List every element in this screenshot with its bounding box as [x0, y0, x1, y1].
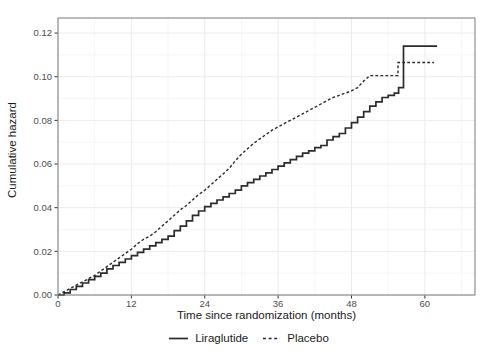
liraglutide-line-key-icon: [169, 336, 188, 341]
y-tick-label: 0.04: [34, 202, 53, 213]
y-tick-label: 0.08: [34, 115, 53, 126]
x-axis-title: Time since randomization (months): [58, 308, 475, 322]
legend-item-placebo: Placebo: [263, 332, 329, 344]
legend-label-liraglutide: Liraglutide: [195, 332, 248, 344]
liraglutide-curve: [58, 46, 437, 295]
placebo-curve: [58, 63, 434, 296]
panel-border: [58, 18, 475, 295]
y-tick-label: 0.06: [34, 158, 53, 169]
y-axis-title: Cumulative hazard: [5, 70, 19, 230]
plot-area: 012243648600.000.020.040.060.080.100.12: [0, 0, 498, 360]
y-tick-label: 0.12: [34, 27, 53, 38]
y-tick-label: 0.10: [34, 71, 53, 82]
placebo-line-key-icon: [263, 336, 280, 341]
legend: Liraglutide Placebo: [0, 330, 498, 346]
y-tick-label: 0.00: [34, 289, 53, 300]
legend-item-liraglutide: Liraglutide: [169, 332, 248, 344]
legend-label-placebo: Placebo: [287, 332, 329, 344]
cumulative-hazard-figure: 012243648600.000.020.040.060.080.100.12 …: [0, 0, 498, 360]
y-tick-label: 0.02: [34, 246, 53, 257]
